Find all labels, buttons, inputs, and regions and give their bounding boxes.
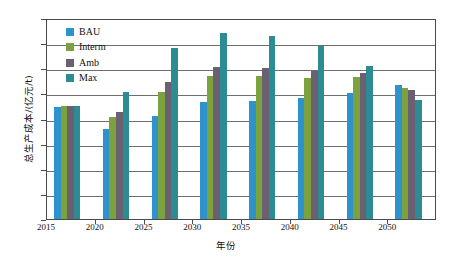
bar-max-2045 (366, 66, 373, 219)
bar-max-2025 (171, 48, 178, 219)
legend-label: Interm (79, 42, 106, 52)
bar-amb-2045 (360, 73, 367, 219)
legend-item-bau[interactable]: BAU (66, 27, 106, 36)
x-tick-label: 2045 (319, 223, 359, 232)
legend-item-amb[interactable]: Amb (66, 58, 106, 67)
bar-interm-2025 (158, 92, 165, 220)
legend-label: BAU (79, 27, 100, 37)
bar-bau-2020 (103, 129, 110, 219)
legend-item-interm[interactable]: Interm (66, 43, 106, 52)
x-tick-label: 2035 (221, 223, 261, 232)
x-tick-label: 2025 (124, 223, 164, 232)
bar-amb-2050 (408, 90, 415, 219)
bar-interm-2030 (207, 76, 214, 219)
bar-interm-2020 (109, 117, 116, 219)
x-tick-mark (95, 220, 96, 224)
legend-item-max[interactable]: Max (66, 74, 106, 83)
x-tick-mark (339, 220, 340, 224)
bar-amb-2030 (213, 67, 220, 219)
legend-swatch-icon (66, 74, 74, 82)
y-tick-mark (41, 220, 46, 221)
bar-max-2040 (318, 46, 325, 219)
bar-max-2035 (269, 36, 276, 219)
legend-swatch-icon (66, 28, 74, 36)
bar-max-2050 (415, 100, 422, 219)
bar-interm-2045 (353, 77, 360, 219)
y-tick-mark (41, 19, 46, 20)
x-tick-label: 2020 (75, 223, 115, 232)
bar-max-2030 (220, 33, 227, 219)
x-tick-label: 2040 (270, 223, 310, 232)
bar-amb-2035 (262, 68, 269, 219)
bar-amb-2015 (67, 106, 74, 219)
legend-label: Amb (79, 58, 99, 68)
y-tick-mark (41, 120, 46, 121)
legend-label: Max (79, 73, 97, 83)
bar-bau-2015 (54, 107, 61, 219)
legend-swatch-icon (66, 59, 74, 67)
bar-amb-2025 (165, 82, 172, 219)
x-tick-mark (241, 220, 242, 224)
legend-swatch-icon (66, 43, 74, 51)
chart-legend: BAUIntermAmbMax (66, 27, 106, 83)
gridline (47, 95, 435, 96)
y-tick-mark (41, 94, 46, 95)
bar-bau-2050 (395, 85, 402, 219)
x-tick-mark (290, 220, 291, 224)
bar-max-2015 (74, 106, 81, 219)
bar-bau-2025 (152, 116, 159, 219)
bar-interm-2040 (304, 78, 311, 219)
bar-chart: 总生产成本/(亿元/t) 020040060080010001200140016… (0, 0, 451, 272)
y-tick-mark (41, 44, 46, 45)
y-tick-mark (41, 69, 46, 70)
bar-interm-2035 (256, 76, 263, 219)
x-tick-mark (144, 220, 145, 224)
x-tick-label: 2030 (172, 223, 212, 232)
bar-bau-2040 (298, 98, 305, 219)
bar-amb-2020 (116, 112, 123, 219)
x-axis-title: 年份 (0, 238, 451, 252)
bar-interm-2050 (402, 88, 409, 219)
y-tick-mark (41, 195, 46, 196)
x-tick-mark (387, 220, 388, 224)
y-axis-title: 总生产成本/(亿元/t) (21, 44, 35, 194)
gridline (47, 121, 435, 122)
x-tick-label: 2015 (26, 223, 66, 232)
x-tick-label: 2050 (367, 223, 407, 232)
bar-max-2020 (123, 92, 130, 219)
x-tick-mark (192, 220, 193, 224)
bar-amb-2040 (311, 71, 318, 219)
y-tick-mark (41, 145, 46, 146)
bar-interm-2015 (61, 106, 68, 219)
bar-bau-2045 (347, 93, 354, 219)
bar-bau-2030 (200, 102, 207, 219)
bar-bau-2035 (249, 101, 256, 219)
y-tick-mark (41, 170, 46, 171)
